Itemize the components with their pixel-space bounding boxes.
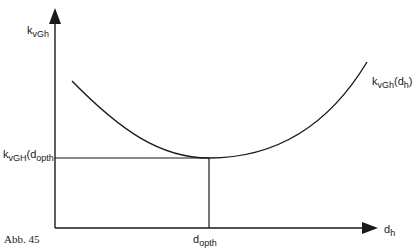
min-value-label-sub: vGH: [9, 153, 27, 163]
curve-label-arg-sub: h: [404, 80, 409, 90]
optimum-x-label-sub: opth: [199, 238, 217, 248]
cost-curve: [72, 62, 367, 158]
optimum-x-label: dopth: [193, 234, 217, 248]
y-axis-label: kvGh: [27, 25, 49, 39]
curve-label: kvGh(dh): [372, 76, 413, 90]
x-axis-label-sub: h: [390, 228, 395, 238]
curve-label-sub: vGh: [378, 80, 395, 90]
x-axis-arrow-icon: [362, 222, 378, 234]
diagram-canvas: [0, 0, 419, 250]
y-axis-label-sub: vGh: [33, 29, 50, 39]
min-value-label: kvGH(dopth: [3, 149, 54, 163]
x-axis-label: dh: [384, 224, 395, 238]
figure-caption: Abb. 45: [4, 233, 39, 245]
min-value-label-arg-sub: opth: [36, 153, 54, 163]
y-axis-arrow-icon: [49, 8, 61, 24]
